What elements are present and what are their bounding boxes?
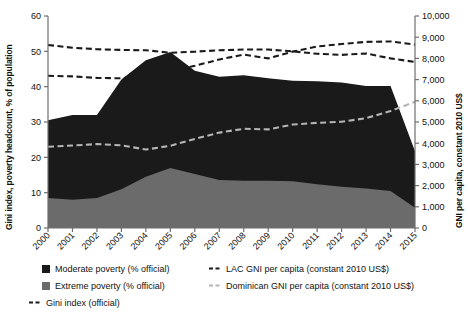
right-tick-label: 0 xyxy=(422,223,427,233)
right-tick-label: 6,000 xyxy=(422,96,445,106)
left-tick-label: 30 xyxy=(31,117,41,127)
right-tick-label: 4,000 xyxy=(422,139,445,149)
legend-label: LAC GNI per capita (constant 2010 US$) xyxy=(226,264,389,274)
left-tick-label: 50 xyxy=(31,47,41,57)
right-tick-label: 3,000 xyxy=(422,160,445,170)
left-tick-label: 20 xyxy=(31,153,41,163)
legend-item[interactable]: Extreme poverty (% official) xyxy=(42,281,165,291)
left-tick-label: 40 xyxy=(31,82,41,92)
left-tick-label: 60 xyxy=(31,11,41,21)
right-axis-title: GNI per capita, constant 2010 US$ xyxy=(454,93,464,228)
right-tick-label: 2,000 xyxy=(422,181,445,191)
legend-swatch xyxy=(42,265,50,273)
right-tick-label: 1,000 xyxy=(422,202,445,212)
legend-label: Gini index (official) xyxy=(46,298,120,308)
legend-item[interactable]: LAC GNI per capita (constant 2010 US$) xyxy=(209,264,389,274)
right-tick-label: 5,000 xyxy=(422,117,445,127)
poverty-gni-chart: Gini index, poverty headcount, % of popu… xyxy=(0,0,468,315)
legend-item[interactable]: Dominican GNI per capita (constant 2010 … xyxy=(209,281,414,291)
left-axis-title: Gini index, poverty headcount, % of popu… xyxy=(4,44,14,230)
svg-text:GNI per capita, constant 2010: GNI per capita, constant 2010 US$ xyxy=(454,93,464,228)
left-tick-label: 0 xyxy=(36,223,41,233)
right-tick-label: 9,000 xyxy=(422,33,445,43)
svg-text:Gini index, poverty headcount,: Gini index, poverty headcount, % of popu… xyxy=(4,44,14,230)
legend-item[interactable]: Moderate poverty (% official) xyxy=(42,264,169,274)
right-tick-label: 10,000 xyxy=(422,11,450,21)
legend-label: Dominican GNI per capita (constant 2010 … xyxy=(226,281,414,291)
right-tick-label: 8,000 xyxy=(422,54,445,64)
right-tick-label: 7,000 xyxy=(422,75,445,85)
legend-label: Extreme poverty (% official) xyxy=(55,281,165,291)
legend-swatch xyxy=(42,282,50,290)
legend-label: Moderate poverty (% official) xyxy=(55,264,169,274)
left-tick-label: 10 xyxy=(31,188,41,198)
